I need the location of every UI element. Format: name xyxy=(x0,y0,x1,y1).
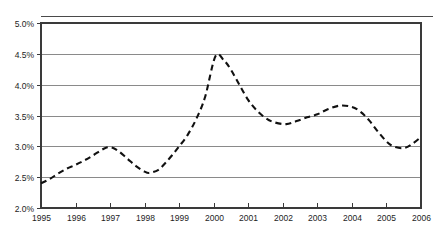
y-tick-label: 3.0% xyxy=(15,142,35,152)
chart-background xyxy=(0,0,441,240)
x-tick-label: 1996 xyxy=(67,213,86,223)
x-tick-label: 1998 xyxy=(136,213,155,223)
y-tick-label: 5.0% xyxy=(15,19,35,29)
y-tick-label: 2.5% xyxy=(15,173,35,183)
x-tick-label: 2003 xyxy=(308,213,327,223)
y-tick-label: 4.5% xyxy=(15,50,35,60)
x-tick-label: 1997 xyxy=(101,213,120,223)
y-tick-label: 3.5% xyxy=(15,112,35,122)
chart-figure: 2.0%2.5%3.0%3.5%4.0%4.5%5.0% 19951996199… xyxy=(0,0,441,240)
x-tick-label: 2000 xyxy=(205,213,224,223)
x-tick-label: 2005 xyxy=(377,213,396,223)
x-tick-label: 1995 xyxy=(32,213,51,223)
x-tick-label: 2004 xyxy=(343,213,362,223)
x-tick-label: 1999 xyxy=(170,213,189,223)
y-tick-label: 2.0% xyxy=(15,204,35,214)
x-tick-label: 2001 xyxy=(239,213,258,223)
line-chart: 2.0%2.5%3.0%3.5%4.0%4.5%5.0% 19951996199… xyxy=(0,0,441,240)
x-tick-label: 2006 xyxy=(412,213,431,223)
x-tick-label: 2002 xyxy=(274,213,293,223)
y-tick-label: 4.0% xyxy=(15,81,35,91)
